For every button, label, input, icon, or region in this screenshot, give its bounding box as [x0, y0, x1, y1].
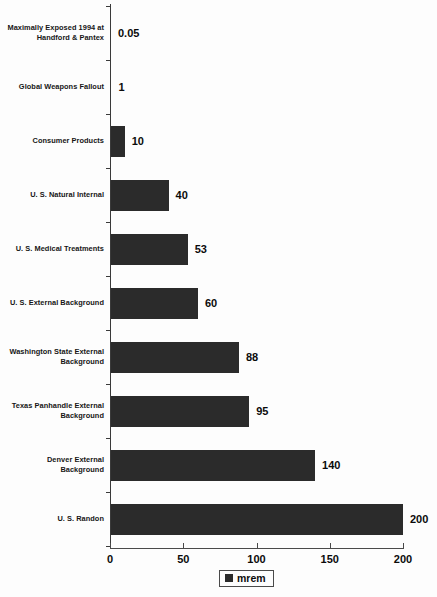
bar-value-label: 95: [256, 406, 268, 417]
bar-value-label: 88: [246, 352, 258, 363]
bar[interactable]: [110, 288, 198, 319]
bar-value-label: 53: [195, 244, 207, 255]
chart-row: Washington State External Background 88: [0, 330, 437, 384]
category-label: U. S. Randon: [6, 492, 110, 546]
x-axis-tick-label: 100: [247, 553, 265, 565]
bar-track: 95: [110, 384, 437, 438]
bar[interactable]: [110, 342, 239, 373]
x-axis-tick-label: 50: [177, 553, 189, 565]
chart-row: Maximally Exposed 1994 at Handford & Pan…: [0, 6, 437, 60]
y-axis-tick: [106, 168, 111, 169]
bar[interactable]: [110, 126, 125, 157]
bar[interactable]: [110, 396, 249, 427]
legend: mrem: [219, 570, 274, 587]
bar-track: 10: [110, 114, 437, 168]
bar-rows: Maximally Exposed 1994 at Handford & Pan…: [0, 6, 437, 546]
category-label: Consumer Products: [6, 114, 110, 168]
bar-value-label: 140: [322, 460, 340, 471]
category-label: U. S. Medical Treatments: [6, 222, 110, 276]
y-axis-tick: [106, 492, 111, 493]
y-axis-tick: [106, 222, 111, 223]
y-axis-tick: [106, 276, 111, 277]
x-axis-tick: [183, 543, 184, 549]
bar[interactable]: [110, 504, 403, 535]
chart-row: U. S. Randon 200: [0, 492, 437, 546]
bar-track: 140: [110, 438, 437, 492]
bar-chart: Maximally Exposed 1994 at Handford & Pan…: [0, 0, 437, 597]
bar-track: 53: [110, 222, 437, 276]
chart-row: U. S. Medical Treatments 53: [0, 222, 437, 276]
x-axis-tick: [403, 543, 404, 549]
category-label: U. S. Natural Internal: [6, 168, 110, 222]
bar-value-label: 200: [410, 514, 428, 525]
category-label: Maximally Exposed 1994 at Handford & Pan…: [6, 6, 110, 60]
category-label: U. S. External Background: [6, 276, 110, 330]
bar[interactable]: [110, 234, 188, 265]
chart-row: U. S. Natural Internal 40: [0, 168, 437, 222]
y-axis-tick: [106, 114, 111, 115]
bar-track: 200: [110, 492, 437, 546]
bar-value-label: 40: [176, 190, 188, 201]
bar-track: 60: [110, 276, 437, 330]
chart-row: Consumer Products 10: [0, 114, 437, 168]
chart-row: Denver External Background 140: [0, 438, 437, 492]
bar-track: 88: [110, 330, 437, 384]
y-axis-tick: [106, 6, 111, 7]
category-label: Washington State External Background: [6, 330, 110, 384]
y-axis-tick: [106, 60, 111, 61]
chart-row: Global Weapons Fallout 1: [0, 60, 437, 114]
bar-value-label: 60: [205, 298, 217, 309]
chart-row: U. S. External Background 60: [0, 276, 437, 330]
legend-entry-label: mrem: [237, 573, 266, 584]
x-axis-tick: [110, 543, 111, 549]
x-axis-tick-label: 200: [394, 553, 412, 565]
bar-value-label: 10: [132, 136, 144, 147]
y-axis-tick: [106, 438, 111, 439]
chart-row: Texas Panhandle External Background 95: [0, 384, 437, 438]
x-axis-tick-label: 150: [321, 553, 339, 565]
category-label: Global Weapons Fallout: [6, 60, 110, 114]
x-axis-tick-label: 0: [107, 553, 113, 565]
bar-track: 40: [110, 168, 437, 222]
category-label: Denver External Background: [6, 438, 110, 492]
bar[interactable]: [110, 450, 315, 481]
x-axis-tick: [330, 543, 331, 549]
category-label: Texas Panhandle External Background: [6, 384, 110, 438]
x-axis-tick: [257, 543, 258, 549]
bar[interactable]: [110, 180, 169, 211]
y-axis-tick: [106, 384, 111, 385]
bar-value-label: 1: [118, 82, 124, 93]
plot-area: Maximally Exposed 1994 at Handford & Pan…: [0, 0, 437, 597]
y-axis-tick: [106, 330, 111, 331]
bar-track: 0.05: [110, 6, 437, 60]
bar-track: 1: [110, 60, 437, 114]
bar-value-label: 0.05: [118, 28, 139, 39]
square-marker-icon: [225, 574, 233, 582]
